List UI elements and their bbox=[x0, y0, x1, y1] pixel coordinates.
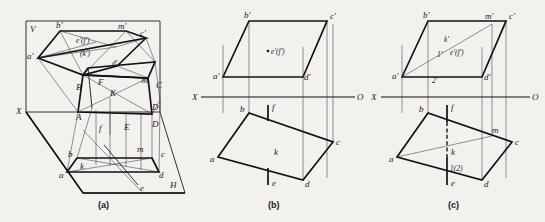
label-d-prime-c: d' bbox=[484, 72, 492, 82]
label-a-prime-a: a' bbox=[27, 51, 35, 61]
label-b-prime-b: b' bbox=[244, 10, 252, 20]
label-d-b: d bbox=[305, 179, 310, 189]
drop-line-c bbox=[159, 100, 160, 172]
caption-a: (a) bbox=[98, 200, 109, 210]
hc-diagonal-am bbox=[397, 136, 492, 157]
label-e-c: e bbox=[451, 178, 455, 188]
label-E-a: E bbox=[123, 122, 130, 132]
label-c-prime-b: c' bbox=[330, 11, 337, 21]
figure-root: V H X a' b' c' d' m' e'(f') (k') A B C D… bbox=[0, 0, 545, 222]
label-k-a: k bbox=[80, 161, 85, 171]
label-d-prime-b: d' bbox=[304, 72, 312, 82]
label-c-a: c bbox=[161, 149, 165, 159]
label-ef-prime-a: e'(f') bbox=[76, 36, 90, 45]
va-outline-lower bbox=[38, 38, 146, 75]
label-c-b: c bbox=[336, 137, 340, 147]
x-label-b: X bbox=[191, 92, 198, 102]
label-e-a: e bbox=[140, 183, 144, 193]
label-b-a: b bbox=[68, 149, 73, 159]
label-a-b: a bbox=[210, 154, 215, 164]
label-k-prime-c: k' bbox=[444, 35, 449, 44]
label-b-prime-a: b' bbox=[56, 20, 64, 30]
label-m-prime-a: m' bbox=[118, 21, 127, 31]
label-A-a: A bbox=[75, 112, 82, 122]
caption-c: (c) bbox=[448, 200, 459, 210]
label-two-prime-c: 2' bbox=[432, 76, 438, 85]
o-label-c: O bbox=[532, 92, 539, 102]
label-e-b: e bbox=[272, 178, 276, 188]
label-b-b: b bbox=[240, 104, 245, 114]
panel-a: V H X a' b' c' d' m' e'(f') (k') A B C D… bbox=[15, 20, 185, 210]
label-C-a: C bbox=[156, 80, 163, 90]
label-f-b: f bbox=[272, 102, 276, 112]
label-M-a: M bbox=[140, 75, 149, 85]
label-F-a: F bbox=[97, 77, 104, 87]
v-plane-label: V bbox=[30, 24, 37, 34]
label-ef-prime-c: e'(f') bbox=[450, 48, 464, 57]
label-D-upper-a: D bbox=[151, 102, 159, 112]
label-B-a: B bbox=[76, 82, 82, 92]
x-axis-label-a: X bbox=[15, 106, 22, 116]
label-d-a: d bbox=[159, 170, 164, 180]
label-d-prime-a: d' bbox=[112, 59, 118, 68]
point-ef-prime-b bbox=[267, 50, 270, 53]
label-m-a: m bbox=[137, 144, 144, 154]
technical-drawing-canvas: V H X a' b' c' d' m' e'(f') (k') A B C D… bbox=[0, 0, 545, 222]
label-c-c: c bbox=[515, 137, 519, 147]
label-f-a: f bbox=[99, 123, 103, 133]
label-k-c: k bbox=[451, 147, 456, 157]
label-K-a: K bbox=[109, 88, 117, 98]
label-b-c: b bbox=[419, 104, 424, 114]
ray-ef bbox=[83, 130, 140, 190]
label-one-two-c: 1(2) bbox=[450, 164, 463, 173]
caption-b: (b) bbox=[268, 200, 280, 210]
label-a-prime-b: a' bbox=[213, 71, 221, 81]
ha-diag-2 bbox=[77, 158, 159, 172]
h-plane-label: H bbox=[169, 180, 177, 190]
label-c-prime-a: c' bbox=[140, 28, 147, 38]
label-d-c: d bbox=[484, 179, 489, 189]
label-D-lower-a: D bbox=[151, 119, 159, 129]
label-k-prime-a: (k') bbox=[80, 49, 90, 58]
proj-line-c bbox=[146, 38, 155, 62]
label-ef-prime-b: e'(f') bbox=[271, 47, 285, 56]
panel-b: X O a' b' c' d' e'(f') a b c d e f k (b) bbox=[191, 10, 364, 210]
label-c-prime-c: c' bbox=[509, 11, 516, 21]
label-k-b: k bbox=[274, 147, 279, 157]
vc-diagonal-am bbox=[402, 24, 492, 77]
x-label-c: X bbox=[370, 92, 377, 102]
label-b-prime-c: b' bbox=[423, 10, 431, 20]
label-m-c: m bbox=[492, 125, 499, 135]
label-m-prime-c: m' bbox=[485, 11, 494, 21]
label-one-prime-c: 1' bbox=[437, 50, 443, 59]
o-label-b: O bbox=[357, 92, 364, 102]
label-f-c: f bbox=[451, 102, 455, 112]
label-a-c: a bbox=[389, 154, 394, 164]
label-a-prime-c: a' bbox=[392, 71, 400, 81]
label-a-a: a bbox=[59, 170, 64, 180]
panel-c: X O a' b' c' d' m' k' 1' 2' e'(f') a b c bbox=[370, 10, 539, 210]
